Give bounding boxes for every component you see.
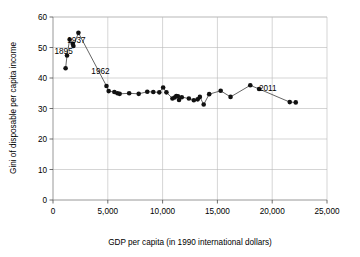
y-tick-label: 60	[38, 13, 48, 22]
y-axis-title: Gini of disposable per capita income	[9, 42, 18, 174]
data-point	[157, 90, 162, 95]
y-tick-label: 30	[38, 105, 48, 114]
data-point	[187, 96, 192, 101]
data-point	[63, 66, 68, 71]
data-point	[104, 84, 109, 89]
data-point	[228, 95, 233, 100]
annotation-label: 1962	[91, 67, 110, 76]
y-tick-label: 40	[38, 74, 48, 83]
data-point	[127, 91, 132, 96]
x-tick-label: 0	[51, 207, 56, 216]
y-tick-label: 50	[38, 44, 48, 53]
data-point	[161, 85, 166, 90]
annotation-label: 1937	[67, 36, 86, 45]
x-tick-label: 15,000	[205, 207, 230, 216]
data-point	[201, 102, 206, 107]
data-point	[76, 31, 81, 36]
data-point	[218, 89, 223, 94]
data-point	[151, 90, 156, 95]
data-point	[179, 95, 184, 100]
data-point	[106, 89, 111, 94]
data-point	[145, 89, 150, 94]
data-point	[287, 100, 292, 105]
data-point	[117, 92, 122, 97]
annotation-label: 2011	[259, 84, 277, 93]
data-point	[293, 100, 298, 105]
gini-vs-gdp-scatter-chart: 0102030405060 05,00010,00015,00020,00025…	[0, 0, 360, 257]
x-tick-label: 20,000	[260, 207, 285, 216]
x-axis-title: GDP per capita (in 1990 international do…	[108, 238, 272, 247]
x-tick-label: 25,000	[314, 207, 339, 216]
x-tick-label: 10,000	[150, 207, 175, 216]
chart-background	[0, 0, 360, 257]
y-tick-label: 10	[38, 166, 48, 175]
data-point	[248, 83, 253, 88]
data-point	[164, 90, 169, 95]
data-point	[136, 92, 141, 97]
data-point	[198, 95, 203, 100]
y-tick-label: 0	[42, 196, 47, 205]
y-tick-label: 20	[38, 135, 48, 144]
x-tick-label: 5,000	[98, 207, 119, 216]
annotation-label: 1895	[54, 47, 73, 56]
data-point	[207, 92, 212, 97]
data-point	[192, 98, 197, 103]
